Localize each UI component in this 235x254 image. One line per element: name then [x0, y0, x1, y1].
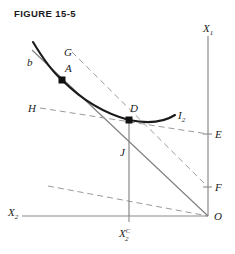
compensated-budget-line-gf [72, 52, 208, 187]
curve-label-j: J [120, 146, 126, 158]
origin-label-o: O [214, 210, 222, 222]
curve-label-g: G [64, 46, 72, 58]
x1-axis-label: X1 [202, 22, 213, 37]
x1-axis-label-sub: 1 [210, 29, 214, 37]
i2-sub: 2 [182, 116, 186, 124]
tick-label-e: E [214, 128, 222, 140]
figure-container: FIGURE 15-5 X1 X2 [0, 0, 235, 254]
curve-label-b: b [27, 56, 33, 68]
tick-label-x2c: XC2 [118, 227, 131, 243]
economics-diagram: X1 X2 O E F XC2 A D b G H J I2 [0, 0, 235, 254]
x2c-sup: C [126, 227, 131, 234]
point-label-d: D [129, 102, 138, 114]
point-label-a: A [64, 62, 72, 74]
x2-axis-label-sub: 2 [15, 213, 19, 221]
point-marker-d [126, 117, 133, 124]
lower-dashed-price-line [48, 186, 208, 216]
tick-label-f: F [214, 181, 222, 193]
curve-label-i2: I2 [177, 109, 186, 124]
original-budget-line [32, 50, 208, 216]
x2-axis-label: X2 [7, 206, 19, 221]
curve-label-h: H [27, 102, 37, 114]
x2c-sub: 2 [125, 235, 129, 243]
point-marker-a [59, 77, 66, 84]
